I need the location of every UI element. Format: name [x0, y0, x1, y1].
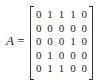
matrix-cell: 0 — [33, 22, 44, 36]
matrix-cell: 0 — [67, 62, 78, 76]
matrix-cell: 0 — [79, 49, 90, 63]
equals-sign: = — [17, 33, 24, 48]
matrix-cell: 0 — [56, 22, 67, 36]
matrix-cell: 1 — [56, 62, 67, 76]
matrix-cell: 0 — [56, 49, 67, 63]
matrix-cell: 0 — [44, 22, 55, 36]
matrix-grid: 0111000000000100100001100 — [33, 8, 90, 76]
matrix-variable: A — [6, 33, 14, 48]
matrix-cell: 1 — [67, 35, 78, 49]
matrix-cell: 0 — [67, 49, 78, 63]
matrix-cell: 0 — [33, 62, 44, 76]
matrix-cell: 1 — [67, 8, 78, 22]
matrix-cell: 0 — [44, 35, 55, 49]
matrix-label: A = — [6, 33, 25, 49]
matrix-cell: 0 — [33, 8, 44, 22]
adjacency-matrix: 0111000000000100100001100 — [30, 6, 93, 78]
matrix-cell: 0 — [33, 49, 44, 63]
matrix-cell: 0 — [56, 35, 67, 49]
matrix-cell: 0 — [79, 8, 90, 22]
matrix-cell: 0 — [33, 35, 44, 49]
matrix-cell: 1 — [44, 49, 55, 63]
matrix-cell: 0 — [67, 22, 78, 36]
matrix-cell: 0 — [79, 35, 90, 49]
matrix-cell: 1 — [56, 8, 67, 22]
matrix-cell: 0 — [79, 22, 90, 36]
matrix-cell: 1 — [44, 62, 55, 76]
matrix-cell: 1 — [44, 8, 55, 22]
matrix-cell: 0 — [79, 62, 90, 76]
